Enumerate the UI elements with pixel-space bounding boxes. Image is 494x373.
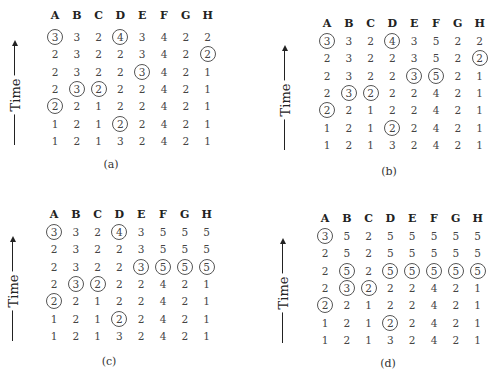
grid-cell: 2	[90, 241, 106, 257]
panel-caption: (d)	[380, 357, 396, 370]
grid-cell: 3	[406, 33, 422, 49]
circled-cell: 3	[317, 228, 333, 244]
grid-cell: 2	[112, 46, 128, 62]
grid-cell: 2	[450, 50, 466, 66]
grid-cell: 2	[177, 276, 193, 292]
grid-cell: 1	[200, 64, 216, 80]
grid-cell: 1	[47, 116, 63, 132]
grid-cell: 2	[384, 85, 400, 101]
column-header: C	[93, 208, 102, 221]
column-header: F	[160, 9, 168, 22]
column-header: A	[321, 212, 330, 225]
grid-cell: 2	[111, 293, 127, 309]
grid-cell: 1	[470, 332, 486, 348]
grid-cell: 2	[133, 276, 149, 292]
grid-cell: 1	[91, 98, 107, 114]
grid-cell: 2	[339, 332, 355, 348]
grid-cell: 3	[69, 64, 85, 80]
grid-cell: 1	[199, 328, 215, 344]
grid-cell: 2	[47, 81, 63, 97]
grid-cell: 4	[156, 116, 172, 132]
grid-cell: 5	[382, 228, 398, 244]
grid-cell: 2	[363, 50, 379, 66]
column-header: B	[344, 17, 353, 30]
grid-cell: 1	[470, 315, 486, 331]
grid-cell: 2	[68, 311, 84, 327]
grid-cell: 2	[178, 29, 194, 45]
grid-cell: 2	[406, 102, 422, 118]
grid-cell: 2	[177, 293, 193, 309]
grid-cell: 1	[363, 102, 379, 118]
circled-cell: 2	[363, 85, 379, 101]
grid-cell: 4	[155, 311, 171, 327]
grid-cell: 1	[319, 137, 335, 153]
grid-cell: 4	[156, 29, 172, 45]
grid-cell: 5	[428, 50, 444, 66]
arrow-up-icon	[282, 45, 288, 51]
grid-cell: 3	[68, 241, 84, 257]
grid-cell: 5	[339, 228, 355, 244]
grid-cell: 2	[406, 137, 422, 153]
grid-cell: 2	[341, 137, 357, 153]
column-header: H	[202, 9, 212, 22]
grid-cell: 4	[156, 133, 172, 149]
circled-cell: 5	[404, 263, 420, 279]
grid-cell: 2	[450, 85, 466, 101]
grid-cell: 2	[133, 293, 149, 309]
grid-cell: 2	[404, 280, 420, 296]
grid-cell: 2	[384, 50, 400, 66]
grid-cell: 1	[46, 311, 62, 327]
grid-cell: 2	[404, 297, 420, 313]
time-axis: Time	[278, 50, 292, 150]
time-axis-label: Time	[8, 76, 23, 115]
grid-cell: 1	[90, 328, 106, 344]
grid-cell: 2	[361, 245, 377, 261]
grid-cell: 2	[47, 46, 63, 62]
column-header: E	[410, 17, 418, 30]
grid-cell: 3	[134, 29, 150, 45]
grid-cell: 1	[90, 293, 106, 309]
grid-cell: 5	[177, 241, 193, 257]
column-header: F	[430, 212, 438, 225]
time-axis-label: Time	[278, 81, 293, 120]
grid-cell: 1	[199, 311, 215, 327]
time-axis: Time	[276, 243, 290, 343]
column-header: B	[342, 212, 351, 225]
column-header: A	[50, 208, 59, 221]
circled-cell: 3	[69, 81, 85, 97]
grid-cell: 2	[178, 64, 194, 80]
grid-cell: 4	[426, 315, 442, 331]
column-header: D	[115, 208, 125, 221]
grid-cell: 2	[69, 116, 85, 132]
column-header: A	[51, 9, 60, 22]
grid-cell: 5	[177, 224, 193, 240]
column-header: H	[474, 17, 484, 30]
time-axis-label: Time	[6, 272, 21, 311]
grid-cell: 5	[155, 224, 171, 240]
grid-cell: 2	[68, 293, 84, 309]
grid-cell: 3	[111, 328, 127, 344]
grid-cell: 2	[450, 137, 466, 153]
grid-cell: 1	[317, 332, 333, 348]
panel-d: TimeABCDEFGH3525555525255555252555552322…	[247, 186, 494, 372]
circled-cell: 2	[46, 293, 62, 309]
grid-cell: 2	[317, 245, 333, 261]
grid-cell: 2	[448, 280, 464, 296]
grid-cell: 2	[382, 280, 398, 296]
grid-cell: 1	[470, 280, 486, 296]
circled-cell: 2	[90, 276, 106, 292]
grid-cell: 2	[178, 46, 194, 62]
circled-cell: 5	[382, 263, 398, 279]
grid-cell: 4	[155, 293, 171, 309]
grid-cell: 5	[428, 33, 444, 49]
circled-cell: 3	[46, 224, 62, 240]
grid-cell: 1	[199, 293, 215, 309]
column-header: D	[388, 17, 398, 30]
circled-cell: 2	[319, 102, 335, 118]
circled-cell: 3	[319, 33, 335, 49]
grid-cell: 1	[200, 98, 216, 114]
grid-cell: 5	[404, 228, 420, 244]
grid-cell: 2	[450, 33, 466, 49]
column-header: F	[159, 208, 167, 221]
grid-cell: 3	[133, 241, 149, 257]
